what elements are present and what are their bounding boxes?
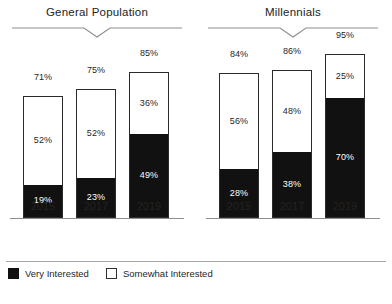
bar-total-label-general-2019: 85% [121, 48, 177, 58]
bar-stack-millennials-2017[interactable]: 48% 38% [272, 70, 312, 218]
bar-group-millennials-2019: 95% 25% 70% 2019 [325, 45, 365, 218]
bar-group-general-2019: 85% 36% 49% 2019 [129, 45, 169, 218]
bar-group-general-2015: 71% 52% 19% 2015 [23, 45, 63, 218]
stacked-bar-chart: General Population 71% 52% 19% 2015 [0, 0, 392, 304]
chart-legend: Very Interested Somewhat Interested [8, 268, 213, 279]
legend-item-somewhat-interested[interactable]: Somewhat Interested [106, 268, 213, 279]
x-axis-line-general-population [10, 218, 184, 219]
x-tick-label-general-2019: 2019 [121, 200, 177, 212]
bar-segment-label-somewhat-millennials-2015: 56% [230, 117, 248, 126]
bar-stack-general-2019[interactable]: 36% 49% [129, 72, 169, 219]
bar-segment-label-very-millennials-2019: 70% [336, 153, 354, 162]
bar-segment-label-somewhat-general-2017: 52% [87, 129, 105, 138]
bar-total-label-millennials-2019: 95% [317, 30, 373, 40]
bar-total-label-millennials-2017: 86% [264, 46, 320, 56]
bar-segment-label-somewhat-millennials-2017: 48% [283, 107, 301, 116]
panel-title-millennials: Millennials [200, 6, 386, 18]
bar-segment-somewhat-general-2017: 52% [77, 90, 115, 178]
x-tick-label-millennials-2017: 2017 [264, 200, 320, 212]
bar-segment-somewhat-millennials-2019: 25% [326, 55, 364, 98]
bar-group-millennials-2015: 84% 56% 28% 2015 [219, 45, 259, 218]
x-tick-label-general-2015: 2015 [15, 200, 71, 212]
bar-segment-label-somewhat-general-2019: 36% [140, 99, 158, 108]
bar-segment-label-very-millennials-2017: 38% [283, 180, 301, 189]
legend-label-very-interested: Very Interested [25, 268, 89, 279]
bar-group-general-2017: 75% 52% 23% 2017 [76, 45, 116, 218]
bar-total-label-millennials-2015: 84% [211, 49, 267, 59]
bar-segment-label-somewhat-general-2015: 52% [34, 136, 52, 145]
panel-millennials: Millennials 84% 56% 28% 2015 [200, 0, 386, 248]
x-tick-label-general-2017: 2017 [68, 200, 124, 212]
bar-total-label-general-2015: 71% [15, 72, 71, 82]
x-axis-line-millennials [206, 218, 380, 219]
bar-stack-millennials-2019[interactable]: 25% 70% [325, 54, 365, 218]
bar-segment-somewhat-millennials-2015: 56% [220, 74, 258, 169]
panel-title-general-population: General Population [4, 6, 190, 18]
plot-area-millennials: 84% 56% 28% 2015 86% 48% [200, 45, 386, 248]
x-tick-label-millennials-2015: 2015 [211, 200, 267, 212]
legend-swatch-somewhat-interested-icon [106, 268, 117, 279]
bar-segment-label-very-millennials-2015: 28% [230, 189, 248, 198]
bar-segment-label-very-general-2019: 49% [140, 171, 158, 180]
plot-area-general-population: 71% 52% 19% 2015 75% 52% [4, 45, 190, 248]
bar-segment-label-somewhat-millennials-2019: 25% [336, 72, 354, 81]
bar-total-label-general-2017: 75% [68, 65, 124, 75]
legend-divider [6, 261, 386, 262]
legend-label-somewhat-interested: Somewhat Interested [123, 268, 213, 279]
bar-segment-somewhat-general-2015: 52% [24, 97, 62, 185]
bar-stack-general-2017[interactable]: 52% 23% [76, 89, 116, 218]
x-tick-label-millennials-2019: 2019 [317, 200, 373, 212]
bar-stack-millennials-2015[interactable]: 56% 28% [219, 73, 259, 218]
legend-item-very-interested[interactable]: Very Interested [8, 268, 89, 279]
bar-segment-somewhat-millennials-2017: 48% [273, 71, 311, 153]
bar-segment-somewhat-general-2019: 36% [130, 73, 168, 134]
panel-divider-general-population [12, 27, 182, 39]
panel-general-population: General Population 71% 52% 19% 2015 [4, 0, 190, 248]
bar-group-millennials-2017: 86% 48% 38% 2017 [272, 45, 312, 218]
legend-swatch-very-interested-icon [8, 268, 19, 279]
